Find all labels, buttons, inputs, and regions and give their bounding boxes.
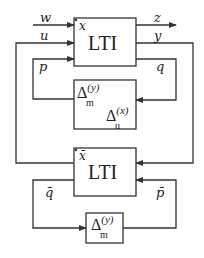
signal-p-label: p — [39, 60, 47, 73]
signal-y-label: y — [154, 29, 161, 42]
signal-u-label: u — [40, 29, 48, 42]
bottom-lti-title: LTI — [88, 162, 117, 182]
state-xbar-label: x̄ — [79, 150, 86, 162]
signal-z-label: z — [154, 11, 161, 24]
signal-qbar-label: q̄ — [45, 186, 53, 199]
delta-m-label: Δ(y)m — [77, 85, 100, 101]
signal-w-label: w — [40, 11, 51, 24]
top-lti-title: LTI — [88, 33, 117, 53]
block-diagram: x LTI w u p z y q Δ(y)m Δ(x)u x̄ LTI q̄ … — [0, 0, 204, 258]
small-delta-label: Δ(y)m — [91, 217, 114, 233]
state-x-label: x — [79, 20, 86, 32]
signal-q-label: q — [156, 60, 164, 73]
delta-u-label: Δ(x)u — [106, 108, 129, 124]
signal-pbar-label: p̄ — [156, 186, 164, 199]
